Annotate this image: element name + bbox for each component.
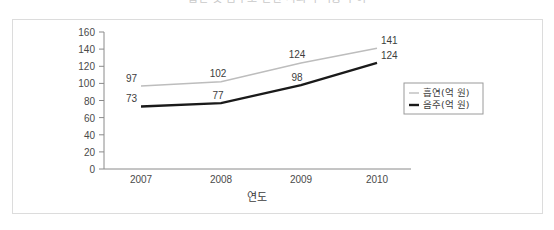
legend-label-smoking: 흡연(억 원): [423, 87, 469, 98]
line-chart: 160 140 120 100 80 60 40 20 0 2007 2008 …: [13, 20, 542, 213]
chart-legend: 흡연(억 원) 음주(억 원): [404, 83, 483, 114]
y-tick-label-0: 0: [89, 164, 95, 175]
data-label-smoking-2008: 102: [210, 68, 227, 79]
x-tick-label-2009: 2009: [290, 174, 313, 185]
data-label-drinking-2010: 124: [381, 50, 398, 61]
y-tick-label-20: 20: [84, 147, 96, 158]
x-tick-label-2007: 2007: [130, 174, 153, 185]
data-label-smoking-2007: 97: [126, 73, 138, 84]
y-tick-label-80: 80: [84, 96, 96, 107]
data-label-smoking-2010: 141: [381, 35, 398, 46]
y-tick-label-40: 40: [84, 130, 96, 141]
data-label-drinking-2008: 77: [212, 90, 224, 101]
chart-frame: 160 140 120 100 80 60 40 20 0 2007 2008 …: [12, 19, 543, 214]
y-tick-label-160: 160: [78, 27, 95, 38]
data-label-drinking-2009: 98: [291, 72, 303, 83]
x-axis-title: 연도: [247, 191, 267, 204]
y-tick-label-120: 120: [78, 61, 95, 72]
y-tick-label-140: 140: [78, 44, 95, 55]
clipped-title-strip: 흡연 및 음주로 인한 사회적 비용 추이: [0, 0, 554, 14]
data-label-drinking-2007: 73: [126, 93, 138, 104]
y-tick-label-60: 60: [84, 113, 96, 124]
y-axis: 160 140 120 100 80 60 40 20 0: [78, 27, 104, 175]
y-tick-label-100: 100: [78, 78, 95, 89]
x-tick-label-2010: 2010: [366, 174, 389, 185]
series-smoking: 97 102 124 141: [126, 35, 398, 86]
x-tick-label-2008: 2008: [210, 174, 233, 185]
legend-label-drinking: 음주(억 원): [423, 99, 469, 110]
x-axis: 2007 2008 2009 2010 연도: [104, 169, 411, 204]
series-smoking-line: [141, 48, 377, 86]
page-title: 흡연 및 음주로 인한 사회적 비용 추이: [0, 0, 554, 5]
series-drinking: 73 77 98 124: [126, 50, 398, 107]
chart-page: 흡연 및 음주로 인한 사회적 비용 추이 160 140 120: [0, 0, 554, 230]
data-label-smoking-2009: 124: [289, 49, 306, 60]
